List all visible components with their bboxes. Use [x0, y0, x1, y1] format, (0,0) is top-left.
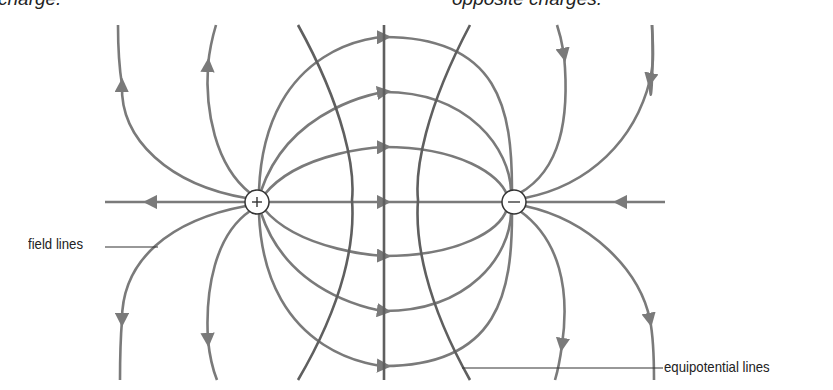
equipotential-lines-label: equipotential lines	[664, 358, 770, 375]
field-line-bottom-1	[264, 209, 384, 256]
positive-charge	[245, 190, 269, 214]
negative-charge	[502, 190, 526, 214]
field-line-right-up-inner	[557, 25, 564, 55]
field-line-left-down-inner	[207, 211, 250, 340]
field-line-left-up-outer	[122, 85, 246, 198]
field-lines-label: field lines	[28, 235, 83, 252]
field-line-left-up-inner	[207, 65, 250, 193]
field-line-left-down-outer	[122, 206, 246, 320]
dipole-field-diagram	[0, 0, 833, 390]
field-line-top-3	[264, 147, 384, 195]
field-line-right-down-outer	[525, 206, 650, 320]
field-line-right-down-inner	[520, 211, 565, 345]
field-line-bottom-3	[259, 214, 384, 366]
field-line-top-1	[259, 37, 384, 190]
